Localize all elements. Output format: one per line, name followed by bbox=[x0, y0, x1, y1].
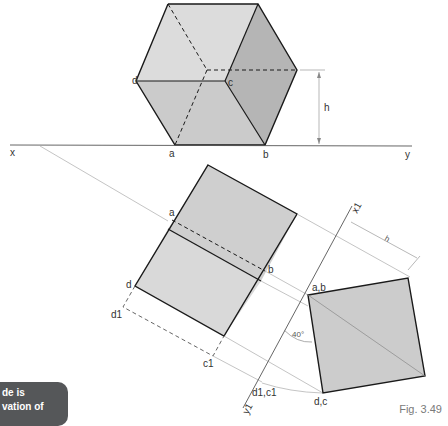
label-h-aux: h bbox=[383, 234, 391, 244]
auxiliary-view bbox=[284, 278, 425, 393]
front-elevation bbox=[136, 4, 325, 145]
figure-caption: Fig. 3.49 bbox=[399, 403, 442, 415]
label-x1: x1 bbox=[349, 200, 364, 215]
label-b-top: b bbox=[263, 149, 269, 160]
xy-reference-line bbox=[10, 145, 412, 146]
badge-line-2: vation of bbox=[2, 400, 68, 414]
label-y1: y1 bbox=[240, 401, 255, 416]
label-y: y bbox=[405, 149, 410, 160]
label-angle: 40° bbox=[292, 330, 304, 339]
badge-line-1: de is bbox=[2, 386, 68, 400]
label-a-plan: a bbox=[169, 207, 175, 218]
label-d-plan: d bbox=[126, 279, 132, 290]
info-badge: de is vation of bbox=[0, 382, 68, 426]
label-h-top: h bbox=[324, 102, 330, 113]
label-c-top: c bbox=[228, 77, 233, 88]
label-b-plan: b bbox=[268, 264, 274, 275]
label-x: x bbox=[10, 147, 15, 158]
label-d1c1: d1,c1 bbox=[252, 387, 277, 398]
label-d-top: d bbox=[132, 75, 138, 86]
label-d1: d1 bbox=[111, 309, 123, 320]
label-c1: c1 bbox=[203, 358, 214, 369]
label-ab: a,b bbox=[312, 282, 326, 293]
label-a-top: a bbox=[169, 148, 175, 159]
plan-view bbox=[123, 165, 297, 356]
label-dc: d,c bbox=[314, 396, 327, 407]
